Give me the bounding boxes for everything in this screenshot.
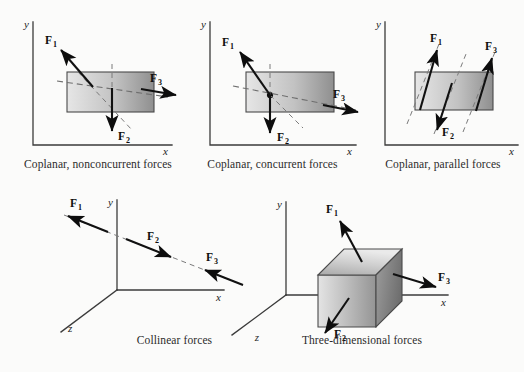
force-label-f2-base: F: [118, 130, 125, 142]
force-label-f2-base: F: [277, 131, 284, 143]
axis-label-z-three-dimensional: z: [250, 331, 264, 343]
force-label-f3-base: F: [438, 271, 445, 283]
force-label-f1-base: F: [70, 197, 77, 209]
force-label-f2-sub: 2: [450, 132, 454, 141]
force-label-f2-sub: 2: [285, 137, 289, 146]
force-label-f2: F 2: [277, 131, 289, 146]
axis-label-x: x: [508, 145, 514, 157]
force-label-f3-sub: 3: [493, 46, 497, 55]
panel-collinear: y x z F 1 F 2 F 3: [28, 185, 263, 335]
axis-label-y: y: [200, 18, 206, 30]
axis-label-x: x: [215, 291, 221, 303]
axis-label-x: x: [346, 145, 352, 157]
force-label-f2-base: F: [442, 126, 449, 138]
force-label-f1-sub: 1: [334, 209, 338, 218]
force-label-f2: F 2: [118, 130, 130, 145]
force-label-f1-sub: 1: [53, 40, 57, 49]
force-label-f3-base: F: [333, 88, 340, 100]
force-label-f1-base: F: [222, 36, 229, 48]
force-label-f3-base: F: [485, 40, 492, 52]
caption-coplanar-nonconcurrent: Coplanar, nonconcurrent forces: [8, 158, 188, 170]
panel-coplanar-nonconcurrent: y x F 1 F 2 F 3: [0, 0, 180, 150]
force-label-f3-base: F: [150, 72, 157, 84]
caption-collinear: Collinear forces: [112, 334, 237, 346]
force-label-f3: F 3: [438, 271, 450, 286]
force-label-f1-sub: 1: [438, 38, 442, 47]
axes-3d: [61, 200, 224, 332]
force-label-f3-base: F: [206, 251, 213, 263]
axis-label-x: x: [440, 296, 446, 308]
axis-label-y: y: [107, 196, 113, 208]
force-label-f2: F 2: [442, 126, 454, 141]
body-block: [67, 72, 154, 112]
caption-three-dimensional: Three-dimensional forces: [282, 334, 442, 346]
axis-label-y: y: [276, 198, 282, 210]
force-label-f2-sub: 2: [126, 136, 130, 145]
force-label-f2: F 2: [147, 230, 159, 245]
force-label-f3-sub: 3: [158, 78, 162, 87]
force-arrow-f3: [205, 270, 243, 285]
force-label-f3-sub: 3: [446, 277, 450, 286]
force-label-f1-sub: 1: [78, 203, 82, 212]
force-label-f2-sub: 2: [155, 236, 159, 245]
force-label-f1-sub: 1: [230, 42, 234, 51]
force-arrow-f1: [68, 216, 108, 232]
force-label-f1: F 1: [326, 203, 338, 218]
force-label-f1: F 1: [45, 34, 57, 49]
force-label-f1-base: F: [430, 32, 437, 44]
force-label-f3-sub: 3: [214, 257, 218, 266]
force-label-f1: F 1: [70, 197, 82, 212]
force-systems-figure: y x F 1 F 2 F 3: [0, 0, 524, 372]
force-label-f2-base: F: [147, 230, 154, 242]
force-label-f1: F 1: [222, 36, 234, 51]
axis-label-y: y: [23, 18, 29, 30]
force-label-f3-sub: 3: [341, 94, 345, 103]
panel-coplanar-concurrent: y x F 1 F 2 F: [178, 0, 363, 150]
force-label-f3: F 3: [333, 88, 345, 103]
caption-coplanar-parallel: Coplanar, parallel forces: [368, 158, 518, 170]
caption-coplanar-concurrent: Coplanar, concurrent forces: [190, 158, 355, 170]
force-label-f1-base: F: [45, 34, 52, 46]
force-label-f3: F 3: [485, 40, 497, 55]
force-label-f3: F 3: [206, 251, 218, 266]
axis-label-y: y: [375, 18, 381, 30]
force-label-f1: F 1: [430, 32, 442, 47]
axis-label-x: x: [162, 145, 168, 157]
panel-coplanar-parallel: y x F 1 F 2 F 3: [358, 0, 524, 150]
axis-label-z: z: [67, 322, 73, 334]
panel-three-dimensional: y x F 1 F 2 F 3: [258, 185, 524, 335]
body-prism: [318, 249, 402, 327]
force-label-f1-base: F: [326, 203, 333, 215]
